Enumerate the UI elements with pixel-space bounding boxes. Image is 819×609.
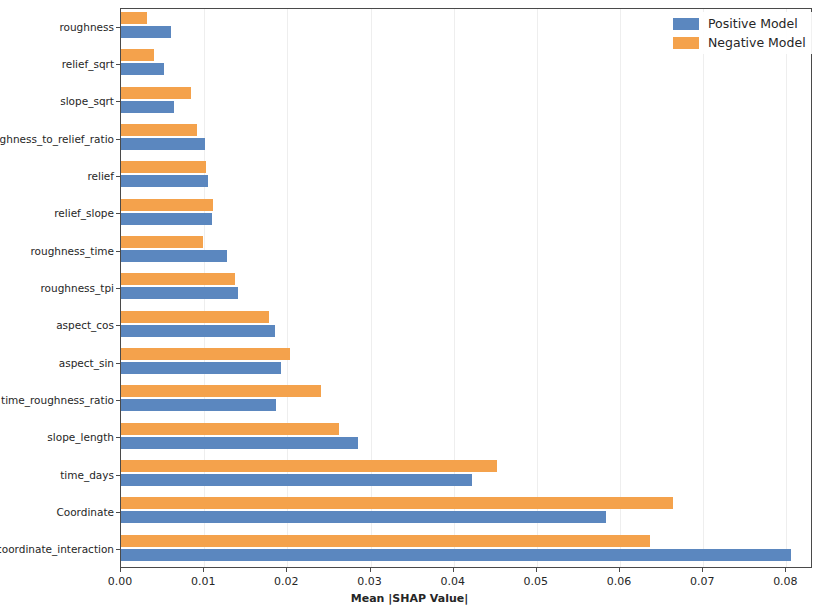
y-axis-tick-mark <box>116 139 120 140</box>
y-axis-tick-label: time_coordinate_interaction <box>0 543 114 555</box>
bar-group <box>121 494 813 529</box>
x-axis-tick-mark <box>203 568 204 572</box>
bar-positive-model <box>121 511 606 523</box>
bar-positive-model <box>121 213 212 225</box>
x-axis-label: Mean |SHAP Value| <box>0 592 819 605</box>
x-axis-tick-label: 0.04 <box>423 575 483 588</box>
legend: Positive Model Negative Model <box>667 12 812 54</box>
bar-negative-model <box>121 423 339 435</box>
bar-positive-model <box>121 325 275 337</box>
legend-item-positive-model: Positive Model <box>673 16 806 31</box>
plot-area <box>120 8 812 568</box>
bar-positive-model <box>121 549 791 561</box>
y-axis-tick-label: slope_length <box>47 431 114 443</box>
x-axis-tick-label: 0.08 <box>755 575 815 588</box>
x-axis-tick-label: 0.06 <box>589 575 649 588</box>
y-axis-tick-mark <box>116 512 120 513</box>
bar-group <box>121 158 813 193</box>
y-axis-tick-mark <box>116 101 120 102</box>
bar-positive-model <box>121 175 208 187</box>
y-axis-tick-label: relief <box>87 170 114 182</box>
bar-positive-model <box>121 287 238 299</box>
y-axis-tick-label: relief_sqrt <box>62 58 114 70</box>
bar-negative-model <box>121 12 147 24</box>
bar-negative-model <box>121 535 650 547</box>
y-axis-tick-label: aspect_sin <box>59 357 114 369</box>
bar-negative-model <box>121 385 321 397</box>
x-axis-tick-label: 0.07 <box>672 575 732 588</box>
x-axis-tick-mark <box>536 568 537 572</box>
bar-negative-model <box>121 236 203 248</box>
x-axis-tick-mark <box>785 568 786 572</box>
y-axis-tick-mark <box>116 288 120 289</box>
x-axis-tick-mark <box>702 568 703 572</box>
bar-negative-model <box>121 199 213 211</box>
bar-positive-model <box>121 26 171 38</box>
y-axis-tick-label: Coordinate <box>56 506 114 518</box>
y-axis-tick-label: roughness_to_relief_ratio <box>0 133 114 145</box>
legend-label-negative-model: Negative Model <box>708 35 806 50</box>
bar-negative-model <box>121 49 154 61</box>
y-axis-tick-label: roughness_time <box>30 245 114 257</box>
bar-positive-model <box>121 101 174 113</box>
x-axis-tick-mark <box>370 568 371 572</box>
bar-negative-model <box>121 124 197 136</box>
y-axis-tick-mark <box>116 64 120 65</box>
y-axis-tick-label: time_roughness_ratio <box>1 394 114 406</box>
legend-label-positive-model: Positive Model <box>708 16 798 31</box>
bar-group <box>121 196 813 231</box>
x-axis-tick-label: 0.03 <box>340 575 400 588</box>
y-axis-tick-label: relief_slope <box>54 207 114 219</box>
y-axis-tick-mark <box>116 213 120 214</box>
legend-item-negative-model: Negative Model <box>673 35 806 50</box>
y-axis-tick-mark <box>116 363 120 364</box>
legend-swatch-positive-model <box>673 18 699 30</box>
y-axis-tick-mark <box>116 437 120 438</box>
x-axis-tick-label: 0.02 <box>256 575 316 588</box>
x-axis-tick-label: 0.00 <box>90 575 150 588</box>
bar-group <box>121 532 813 567</box>
bar-negative-model <box>121 348 290 360</box>
y-axis-tick-label: aspect_cos <box>56 319 114 331</box>
x-axis-tick-mark <box>453 568 454 572</box>
bar-positive-model <box>121 437 358 449</box>
bar-group <box>121 270 813 305</box>
x-axis-tick-mark <box>120 568 121 572</box>
bar-group <box>121 345 813 380</box>
y-axis-tick-mark <box>116 325 120 326</box>
y-axis-tick-label: roughness_tpi <box>41 282 115 294</box>
y-axis-tick-label: roughness <box>59 21 114 33</box>
bar-positive-model <box>121 362 281 374</box>
legend-swatch-negative-model <box>673 37 699 49</box>
bar-group <box>121 84 813 119</box>
y-axis-tick-mark <box>116 176 120 177</box>
y-axis-tick-label: time_days <box>60 469 114 481</box>
bar-negative-model <box>121 497 673 509</box>
bar-group <box>121 382 813 417</box>
bar-positive-model <box>121 474 472 486</box>
bar-negative-model <box>121 273 235 285</box>
bar-negative-model <box>121 311 269 323</box>
x-axis-tick-label: 0.01 <box>173 575 233 588</box>
bar-negative-model <box>121 87 191 99</box>
bar-positive-model <box>121 138 205 150</box>
y-axis-tick-mark <box>116 400 120 401</box>
bar-positive-model <box>121 399 276 411</box>
bar-group <box>121 233 813 268</box>
bar-positive-model <box>121 250 227 262</box>
y-axis-tick-mark <box>116 27 120 28</box>
y-axis-tick-mark <box>116 475 120 476</box>
bar-negative-model <box>121 460 497 472</box>
bar-group <box>121 308 813 343</box>
bar-group <box>121 420 813 455</box>
y-axis-tick-mark <box>116 549 120 550</box>
x-axis-tick-mark <box>619 568 620 572</box>
x-axis-tick-mark <box>286 568 287 572</box>
y-axis-tick-mark <box>116 251 120 252</box>
bar-negative-model <box>121 161 206 173</box>
bar-positive-model <box>121 63 164 75</box>
x-axis-tick-label: 0.05 <box>506 575 566 588</box>
y-axis-tick-label: slope_sqrt <box>60 95 114 107</box>
bar-group <box>121 457 813 492</box>
bar-group <box>121 121 813 156</box>
